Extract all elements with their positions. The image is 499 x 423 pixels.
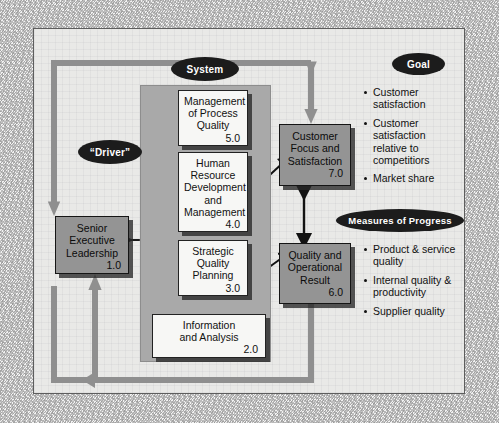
box-number: 5.0 [184,132,242,144]
list-item: Internal quality & productivity [363,274,459,299]
box-information-and-analysis: Information and Analysis 2.0 [152,314,266,358]
box-number: 3.0 [184,282,242,294]
box-line: and [204,194,222,206]
box-line: Planning [193,269,234,281]
list-item: Customer satisfaction [363,86,455,111]
box-line: Quality and [288,249,341,261]
box-line: Satisfaction [288,155,342,167]
box-line: Information [183,319,236,331]
box-number: 4.0 [184,218,242,230]
label-measures-of-progress: Measures of Progress [336,209,464,232]
box-number: 1.0 [61,259,123,271]
box-line: Quality [197,119,230,131]
box-line: Resource [191,169,236,181]
label-system: System [171,57,239,81]
box-line: and Analysis [180,331,239,343]
box-human-resource-development-and-management: Human Resource Development and Managemen… [178,152,248,232]
box-line: Senior [77,222,107,234]
box-line: Executive [69,234,115,246]
box-line: Development [184,181,246,193]
box-line: Result [300,274,330,286]
box-strategic-quality-planning: Strategic Quality Planning 3.0 [178,240,248,296]
box-line: Strategic [192,245,233,257]
box-line: Human [196,157,230,169]
goal-bullet-list: Customer satisfaction Customer satisfact… [363,86,455,191]
box-senior-executive-leadership: Senior Executive Leadership 1.0 [55,216,129,274]
box-line: Management [184,206,245,218]
label-driver: “Driver” [78,140,142,164]
box-line: Leadership [66,247,118,259]
list-item: Product & service quality [363,243,459,268]
list-item: Supplier quality [363,305,459,317]
box-line: Management [184,95,245,107]
list-item: Customer satisfaction relative to compet… [363,117,455,167]
box-line: Focus and [290,142,339,154]
measures-bullet-list: Product & service quality Internal quali… [363,243,459,323]
box-number: 2.0 [158,343,260,355]
label-goal: Goal [392,53,445,75]
box-customer-focus-and-satisfaction: Customer Focus and Satisfaction 7.0 [279,124,351,186]
box-line: of Process [188,107,238,119]
box-quality-and-operational-result: Quality and Operational Result 6.0 [279,243,351,304]
box-line: Quality [197,257,230,269]
box-management-of-process-quality: Management of Process Quality 5.0 [178,90,248,146]
box-number: 6.0 [285,286,345,298]
list-item: Market share [363,172,455,184]
diagram-canvas: System “Driver” Goal Measures of Progres… [0,0,499,423]
box-line: Customer [292,130,338,142]
box-number: 7.0 [285,167,345,179]
box-line: Operational [288,261,342,273]
